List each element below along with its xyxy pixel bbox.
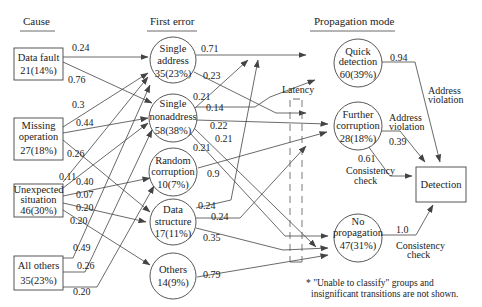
svg-text:0.23: 0.23 xyxy=(203,70,221,81)
footnote-line1: * "Unable to classify" groups and xyxy=(306,278,434,288)
svg-text:0.76: 0.76 xyxy=(68,74,86,85)
svg-text:0.20: 0.20 xyxy=(73,286,91,297)
svg-text:47(31%): 47(31%) xyxy=(340,240,377,252)
svg-text:0.11: 0.11 xyxy=(59,171,76,182)
svg-text:10(7%): 10(7%) xyxy=(157,179,189,191)
footnote-line2: insignificant transitions are not shown. xyxy=(311,289,459,299)
svg-text:address: address xyxy=(157,55,189,66)
error-propagation-diagram: Cause First error Propagation mode xyxy=(0,0,482,307)
svg-text:Detection: Detection xyxy=(421,179,463,190)
svg-text:0.07: 0.07 xyxy=(76,189,94,200)
svg-text:Single: Single xyxy=(160,98,187,109)
svg-text:0.71: 0.71 xyxy=(201,43,219,54)
first-error-single-address: Single address 35(23%) xyxy=(150,37,196,83)
svg-text:0.21: 0.21 xyxy=(193,91,211,102)
first-error-others: Others 14(9%) xyxy=(150,253,196,299)
svg-text:0.39: 0.39 xyxy=(389,136,407,147)
svg-text:0.20: 0.20 xyxy=(76,202,94,213)
svg-text:corruption: corruption xyxy=(151,166,195,177)
svg-text:0.24: 0.24 xyxy=(211,211,229,222)
svg-text:0.20: 0.20 xyxy=(70,215,88,226)
svg-text:0.3: 0.3 xyxy=(72,99,85,110)
svg-text:0.94: 0.94 xyxy=(390,52,408,63)
svg-text:58(38%): 58(38%) xyxy=(155,125,192,137)
svg-text:0.26: 0.26 xyxy=(67,148,85,159)
svg-text:27(18%): 27(18%) xyxy=(20,145,57,157)
svg-text:check: check xyxy=(407,249,430,260)
svg-text:0.24: 0.24 xyxy=(72,42,90,53)
svg-text:Missing: Missing xyxy=(22,120,57,131)
svg-text:0.61: 0.61 xyxy=(358,153,376,164)
svg-text:35(23%): 35(23%) xyxy=(155,68,192,80)
header-cause: Cause xyxy=(23,15,50,27)
detection-box: Detection xyxy=(416,167,466,202)
svg-text:0.24: 0.24 xyxy=(198,200,216,211)
svg-text:0.21: 0.21 xyxy=(215,133,233,144)
svg-text:corruption: corruption xyxy=(336,120,380,131)
svg-text:0.9: 0.9 xyxy=(207,168,220,179)
svg-text:0.49: 0.49 xyxy=(73,242,91,253)
svg-text:situation: situation xyxy=(20,194,57,205)
cause-all-others: All others 35(23%) xyxy=(14,256,63,290)
svg-text:Single: Single xyxy=(160,43,187,54)
svg-text:operation: operation xyxy=(19,131,59,142)
propagation-no-propagation: No propagation 47(31%) xyxy=(333,214,384,262)
svg-text:0.26: 0.26 xyxy=(77,260,95,271)
svg-text:nonaddress: nonaddress xyxy=(149,111,196,122)
svg-text:28(18%): 28(18%) xyxy=(340,133,377,145)
edge-labels: 0.24 0.76 0.3 0.44 0.26 0.11 0.40 0.07 0… xyxy=(59,42,464,297)
svg-text:All others: All others xyxy=(18,260,60,271)
header-propagation-mode: Propagation mode xyxy=(314,15,394,27)
cause-missing-operation: Missing operation 27(18%) xyxy=(14,118,63,160)
svg-text:Data: Data xyxy=(163,204,183,215)
svg-text:0.21: 0.21 xyxy=(193,142,211,153)
svg-text:Further: Further xyxy=(343,109,374,120)
svg-text:0.40: 0.40 xyxy=(76,176,94,187)
svg-text:0.22: 0.22 xyxy=(210,120,228,131)
svg-text:0.44: 0.44 xyxy=(76,117,94,128)
svg-text:35(23%): 35(23%) xyxy=(20,275,57,287)
svg-text:0.14: 0.14 xyxy=(206,102,224,113)
first-error-random-corruption: Random corruption 10(7%) xyxy=(149,148,197,196)
latency-label: Latency xyxy=(282,84,314,95)
svg-text:Others: Others xyxy=(159,264,187,275)
svg-text:21(14%): 21(14%) xyxy=(20,65,57,77)
svg-text:0.35: 0.35 xyxy=(203,232,221,243)
svg-text:Data fault: Data fault xyxy=(18,52,60,63)
svg-text:check: check xyxy=(354,175,377,186)
svg-text:propagation: propagation xyxy=(333,227,384,238)
cause-unexpected-situation: Unexpected situation 46(30%) xyxy=(13,184,64,217)
cause-data-fault: Data fault 21(14%) xyxy=(14,48,63,80)
svg-text:46(30%): 46(30%) xyxy=(20,205,57,217)
svg-text:0.79: 0.79 xyxy=(203,269,221,280)
propagation-quick-detection: Quick detection 60(39%) xyxy=(334,39,382,87)
svg-text:violation: violation xyxy=(428,94,464,105)
svg-text:60(39%): 60(39%) xyxy=(340,69,377,81)
header-first-error: First error xyxy=(150,15,195,27)
svg-text:17(11%): 17(11%) xyxy=(155,228,192,240)
svg-text:Random: Random xyxy=(155,155,191,166)
first-error-data-structure: Data structure 17(11%) xyxy=(150,199,196,245)
svg-text:14(9%): 14(9%) xyxy=(157,277,189,289)
svg-text:detection: detection xyxy=(339,56,378,67)
svg-text:structure: structure xyxy=(155,216,192,227)
first-error-single-nonaddress: Single nonaddress 58(38%) xyxy=(149,94,197,142)
propagation-further-corruption: Further corruption 28(18%) xyxy=(334,102,382,150)
svg-text:No: No xyxy=(352,216,365,227)
svg-text:violation: violation xyxy=(389,121,425,132)
svg-text:1.0: 1.0 xyxy=(396,224,409,235)
